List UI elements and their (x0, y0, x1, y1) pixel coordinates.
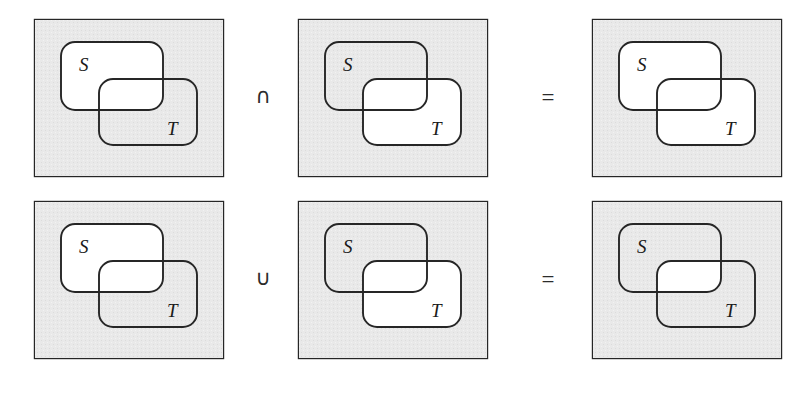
set-t-label: T (431, 300, 443, 321)
venn-panel-row2-col2: S T complement of T (297, 200, 489, 360)
venn-row-intersection: S T complement of S ∩ (0, 18, 808, 193)
venn-panel-row1-col2: S T complement of T (297, 18, 489, 178)
operator-union-row2: ∪ (243, 268, 283, 289)
set-t-label: T (725, 118, 737, 139)
set-t-label: T (167, 300, 179, 321)
equals-glyph: = (542, 85, 555, 110)
operator-equals-row2: = (528, 268, 568, 291)
venn-row-union: S T complement of S ∪ (0, 200, 808, 375)
operator-equals-row1: = (528, 86, 568, 109)
venn-panel-row1-col1: S T complement of S (33, 18, 225, 178)
operator-intersection-row1: ∩ (243, 86, 283, 107)
venn-panel-row2-col1: S T complement of S (33, 200, 225, 360)
venn-panel-row1-col3: S T complement of S union T (591, 18, 783, 178)
set-s-label: S (637, 54, 647, 75)
set-s-label: S (343, 54, 353, 75)
set-s-label: S (79, 54, 89, 75)
equals-glyph: = (542, 267, 555, 292)
set-t-label: T (167, 118, 179, 139)
set-t-label: T (725, 300, 737, 321)
set-t-label: T (431, 118, 443, 139)
set-s-label: S (79, 236, 89, 257)
set-s-label: S (343, 236, 353, 257)
set-s-label: S (637, 236, 647, 257)
venn-panel-row2-col3: S T complement of S intersect T (591, 200, 783, 360)
de-morgan-venn-figure: S T complement of S ∩ (0, 0, 808, 395)
